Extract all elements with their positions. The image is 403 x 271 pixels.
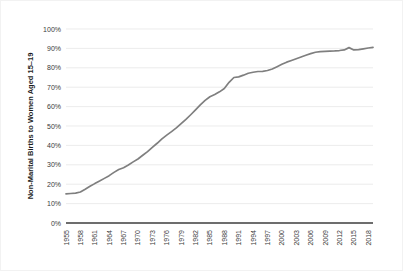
x-tick-label: 2015 bbox=[350, 230, 357, 246]
x-tick-label: 2009 bbox=[322, 230, 329, 246]
x-tick-label: 1970 bbox=[134, 230, 141, 246]
x-tick-label: 1994 bbox=[250, 230, 257, 246]
line-chart: 0%10%20%30%40%50%60%70%80%90%100% 195519… bbox=[1, 1, 403, 271]
x-tick-label: 1973 bbox=[149, 230, 156, 246]
y-tick-label: 70% bbox=[47, 84, 61, 91]
y-tick-label: 50% bbox=[47, 123, 61, 130]
y-tick-label: 60% bbox=[47, 103, 61, 110]
x-tick-label: 2012 bbox=[336, 230, 343, 246]
x-tick-label: 1964 bbox=[106, 230, 113, 246]
y-axis-title: Non-Marital Births to Women Aged 15–19 bbox=[26, 53, 35, 200]
y-tick-label: 0% bbox=[51, 220, 61, 227]
chart-container: 0%10%20%30%40%50%60%70%80%90%100% 195519… bbox=[0, 0, 403, 271]
x-tick-label: 1958 bbox=[77, 230, 84, 246]
y-tick-label: 100% bbox=[43, 26, 61, 33]
y-tick-label: 10% bbox=[47, 200, 61, 207]
x-tick-label: 1967 bbox=[120, 230, 127, 246]
y-tick-label: 40% bbox=[47, 142, 61, 149]
x-tick-label: 1988 bbox=[221, 230, 228, 246]
y-tick-label: 90% bbox=[47, 45, 61, 52]
y-tick-label: 20% bbox=[47, 181, 61, 188]
x-tick-label: 1997 bbox=[264, 230, 271, 246]
x-tick-label: 1982 bbox=[192, 230, 199, 246]
x-tick-label: 1955 bbox=[63, 230, 70, 246]
x-tick-label: 1991 bbox=[235, 230, 242, 246]
x-tick-label: 1979 bbox=[178, 230, 185, 246]
y-tick-label: 80% bbox=[47, 64, 61, 71]
x-tick-label: 1976 bbox=[163, 230, 170, 246]
x-axis-tick-labels: 1955195819611964196719701973197619791982… bbox=[63, 230, 372, 246]
x-tick-label: 1961 bbox=[91, 230, 98, 246]
x-tick-label: 2003 bbox=[293, 230, 300, 246]
data-series-line bbox=[66, 47, 373, 193]
y-tick-label: 30% bbox=[47, 161, 61, 168]
gridlines bbox=[66, 29, 373, 204]
x-tick-label: 1985 bbox=[206, 230, 213, 246]
x-tick-label: 2006 bbox=[307, 230, 314, 246]
x-tick-label: 2018 bbox=[365, 230, 372, 246]
y-axis-tick-labels: 0%10%20%30%40%50%60%70%80%90%100% bbox=[43, 26, 61, 227]
x-tick-label: 2000 bbox=[278, 230, 285, 246]
